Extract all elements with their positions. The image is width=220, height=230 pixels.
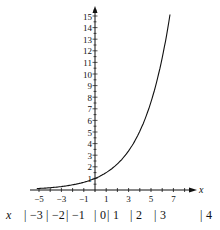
tick-labels: −5−3−11357123456789101112131415 [34,12,176,205]
svg-text:9: 9 [88,81,93,91]
value-table: x |−3|−2|−1|0|1|2|3|4 [0,208,220,228]
table-cell: 0 [100,208,106,223]
table-divider: | [24,208,26,223]
svg-text:7: 7 [171,194,176,204]
svg-text:1: 1 [104,194,109,204]
table-cell: −1 [72,208,85,223]
svg-text:7: 7 [88,104,93,114]
svg-text:1: 1 [88,174,93,184]
chart: −5−3−11357123456789101112131415 x [0,0,220,230]
table-divider: | [94,208,96,223]
table-divider: | [200,208,202,223]
svg-text:8: 8 [88,93,93,103]
x-axis-label: x [198,184,204,195]
svg-text:5: 5 [88,128,93,138]
table-divider: | [46,208,48,223]
svg-text:11: 11 [83,58,92,68]
x-axis-arrow-icon [189,188,197,193]
svg-text:−5: −5 [34,194,44,204]
svg-text:2: 2 [88,162,93,172]
table-cell: 2 [136,208,142,223]
svg-text:4: 4 [88,139,93,149]
svg-text:−1: −1 [79,194,89,204]
table-divider: | [154,208,156,223]
svg-text:−3: −3 [57,194,67,204]
table-cell: 3 [160,208,166,223]
svg-text:5: 5 [149,194,154,204]
table-header: x [6,208,11,223]
table-divider: | [66,208,68,223]
svg-text:14: 14 [83,23,93,33]
svg-text:3: 3 [88,151,93,161]
svg-text:13: 13 [83,35,93,45]
svg-text:10: 10 [83,70,93,80]
svg-text:6: 6 [88,116,93,126]
svg-text:12: 12 [83,46,92,56]
y-axis-arrow-icon [93,6,98,13]
curve-line [37,15,170,189]
table-divider: | [107,208,109,223]
table-divider: | [130,208,132,223]
svg-text:3: 3 [126,194,131,204]
table-cell: 4 [206,208,212,223]
table-cell: −3 [30,208,43,223]
svg-text:15: 15 [83,12,93,22]
table-cell: 1 [113,208,119,223]
table-cell: −2 [52,208,65,223]
ticks [39,10,185,192]
